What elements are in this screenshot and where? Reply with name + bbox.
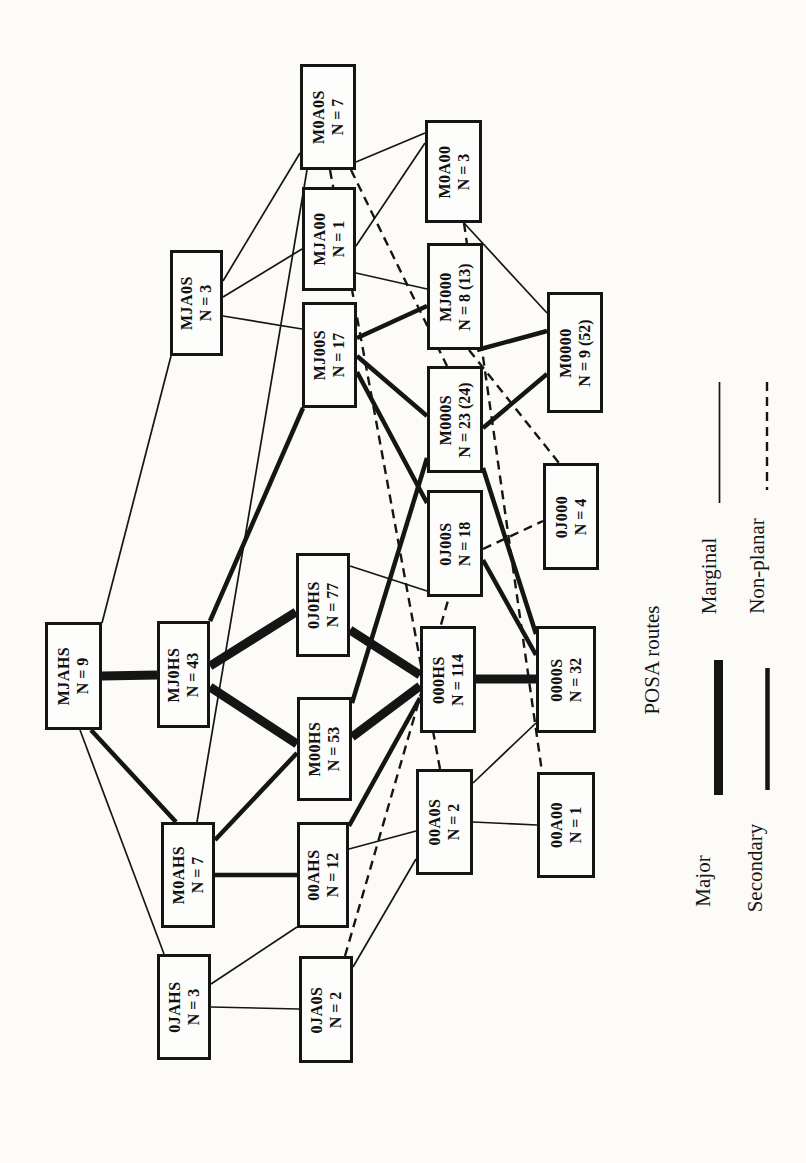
node-label-m00hs: M00HSN = 53 [306, 722, 344, 777]
legend-label-nonplanar: Non-planar [745, 518, 770, 614]
node-0j000: 0J000N = 4 [543, 463, 599, 570]
node-mjahs: MJAHSN = 9 [45, 622, 102, 730]
edge-mj000-m0000 [477, 331, 547, 350]
edge-mjahs-m0ahs [91, 730, 176, 822]
node-count: N = 2 [326, 986, 345, 1033]
node-count: N = 1 [566, 802, 585, 848]
node-code: M0A0S [309, 90, 328, 144]
node-code: M0A00 [435, 145, 454, 198]
node-0ja0s: 0JA0SN = 2 [299, 956, 353, 1063]
edge-m00hs-000hs [352, 686, 420, 737]
edge-mja0s-mj00s [223, 316, 302, 329]
legend-label-secondary: Secondary [743, 824, 768, 913]
node-mj000: MJ000N = 8 (13) [427, 243, 483, 350]
node-count: N = 8 (13) [455, 263, 474, 330]
node-mj00s: MJ00SN = 17 [302, 302, 357, 408]
legend-title: POSA routes [640, 605, 665, 714]
node-code: MJA0S [178, 276, 197, 330]
node-label-0000s: 0000SN = 32 [547, 657, 585, 702]
node-count: N = 4 [571, 495, 590, 538]
node-label-mj00s: MJ00SN = 17 [311, 330, 349, 381]
node-mj0hs: MJ0HSN = 43 [157, 621, 210, 728]
node-count: N = 43 [184, 647, 203, 702]
node-m00hs: M00HSN = 53 [297, 697, 352, 801]
edge-mj0hs-0j0hs [210, 612, 296, 666]
node-label-00ahs: 00AHSN = 12 [304, 849, 342, 900]
edge-00ahs-0jahs [211, 927, 297, 984]
node-count: N = 3 [184, 981, 203, 1032]
node-count: N = 53 [325, 722, 344, 777]
node-mja00: MJA00N = 1 [302, 187, 356, 291]
node-m0a0s: M0A0SN = 7 [300, 64, 356, 170]
node-00a00: 00A00N = 1 [537, 772, 595, 878]
node-m0000: M0000N = 9 (52) [547, 292, 603, 413]
node-label-m0000: M0000N = 9 (52) [556, 319, 594, 386]
edge-00ahs-00a0s [349, 831, 416, 849]
edge-0jahs-0ja0s [211, 1007, 299, 1009]
node-code: M0AHS [169, 846, 188, 905]
node-label-mja00: MJA00N = 1 [310, 212, 348, 265]
node-label-0j00s: 0J00SN = 18 [436, 521, 474, 566]
node-m0a00: M0A00N = 3 [425, 120, 482, 223]
node-count: N = 114 [448, 654, 467, 706]
diagram-figure: M0A0SN = 7M0A00N = 3MJA0SN = 3MJA00N = 1… [0, 0, 806, 1163]
node-code: 0JA0S [307, 986, 326, 1033]
node-code: MJ0HS [165, 647, 184, 702]
node-label-mj0hs: MJ0HSN = 43 [165, 647, 203, 702]
node-label-000hs: 000HSN = 114 [429, 654, 467, 706]
node-label-mj000: MJ000N = 8 (13) [436, 263, 474, 330]
node-label-mja0s: MJA0SN = 3 [178, 276, 216, 330]
node-m0ahs: M0AHSN = 7 [161, 822, 215, 928]
node-0j00s: 0J00SN = 18 [427, 490, 483, 597]
node-label-0jahs: 0JAHSN = 3 [165, 981, 203, 1032]
node-count: N = 7 [188, 846, 207, 905]
node-count: N = 32 [566, 657, 585, 702]
edge-mjahs-mj0hs [102, 675, 157, 676]
node-code: 0J00S [436, 521, 455, 566]
node-count: N = 18 [455, 521, 474, 566]
node-count: N = 77 [323, 581, 342, 629]
edge-0j00s-0j000 [483, 521, 543, 549]
node-0j0hs: 0J0HSN = 77 [296, 553, 350, 657]
edge-mja00-mj000 [356, 273, 427, 289]
edge-mj0hs-m00hs [210, 687, 297, 744]
node-code: MJAHS [55, 647, 74, 706]
node-label-m0a0s: M0A0SN = 7 [309, 90, 347, 144]
node-count: N = 1 [329, 212, 348, 265]
node-label-m0a00: M0A00N = 3 [435, 145, 473, 198]
node-label-0j0hs: 0J0HSN = 77 [304, 581, 342, 629]
edges-layer [0, 0, 806, 1163]
node-0jahs: 0JAHSN = 3 [157, 954, 211, 1060]
node-label-m000s: M000SN = 23 (24) [436, 382, 474, 457]
node-count: N = 3 [197, 276, 216, 330]
edge-00a0s-0000s [473, 723, 536, 783]
node-000hs: 000HSN = 114 [420, 626, 476, 733]
node-code: 0J000 [552, 495, 571, 538]
node-0000s: 0000SN = 32 [536, 626, 596, 733]
node-00ahs: 00AHSN = 12 [297, 822, 349, 928]
node-count: N = 17 [330, 330, 349, 381]
edge-mj00s-m000s [357, 356, 427, 416]
node-code: 0000S [547, 657, 566, 702]
edge-m0ahs-m00hs [215, 753, 297, 840]
edge-mj00s-mj0hs [210, 408, 303, 621]
node-label-m0ahs: M0AHSN = 7 [169, 846, 207, 905]
node-mja0s: MJA0SN = 3 [170, 250, 223, 356]
node-label-0ja0s: 0JA0SN = 2 [307, 986, 345, 1033]
node-code: 00A0S [425, 799, 444, 846]
node-m000s: M000SN = 23 (24) [427, 366, 483, 473]
edge-mjahs-mja0s [102, 356, 171, 623]
node-count: N = 23 (24) [455, 382, 474, 457]
edge-mj00s-0j00s [357, 372, 427, 503]
node-code: MJA00 [310, 212, 329, 265]
node-code: M000S [436, 382, 455, 457]
node-count: N = 7 [328, 90, 347, 144]
node-count: N = 3 [454, 145, 473, 198]
node-code: 0J0HS [304, 581, 323, 629]
node-code: MJ00S [311, 330, 330, 381]
edge-mj00s-mj000 [357, 306, 427, 338]
node-code: MJ000 [436, 263, 455, 330]
legend-label-major: Major [691, 855, 716, 906]
edge-0ja0s-00a0s [353, 859, 416, 967]
node-code: 000HS [429, 654, 448, 706]
